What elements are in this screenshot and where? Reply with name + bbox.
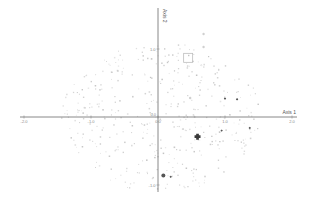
data-point [92, 107, 93, 108]
data-point [118, 65, 119, 66]
data-point [185, 119, 186, 120]
data-point [225, 65, 226, 66]
data-point [82, 112, 84, 114]
data-point [251, 112, 252, 113]
data-point [241, 142, 242, 143]
data-point [248, 115, 249, 116]
data-point [120, 175, 121, 176]
data-point [179, 150, 180, 151]
data-point [147, 172, 148, 173]
data-point [95, 74, 96, 75]
data-point [109, 137, 110, 138]
data-point [192, 181, 193, 182]
data-point [178, 68, 179, 69]
data-point [65, 97, 67, 99]
data-point [138, 164, 139, 165]
data-point [142, 52, 143, 53]
data-point [79, 122, 80, 123]
data-point [111, 169, 112, 170]
data-point [225, 156, 227, 158]
data-point [89, 139, 91, 141]
data-point [257, 128, 258, 129]
data-point [63, 105, 65, 107]
data-point [126, 168, 127, 169]
data-point [177, 106, 178, 107]
data-point [201, 65, 202, 66]
data-point [115, 62, 116, 63]
data-point [178, 53, 179, 54]
data-point [188, 76, 189, 77]
x-axis-title: Axis 1 [282, 109, 296, 115]
data-point [79, 94, 80, 95]
data-point [147, 81, 148, 82]
data-point [218, 160, 219, 161]
data-point [191, 147, 192, 148]
data-point [173, 96, 174, 97]
data-point [182, 129, 183, 130]
data-point [251, 116, 252, 117]
data-point [147, 173, 148, 174]
data-point [178, 72, 179, 73]
data-point [99, 89, 101, 91]
highlighted-point [184, 53, 193, 62]
data-point [89, 103, 90, 104]
data-point [73, 92, 74, 93]
data-point [75, 144, 77, 146]
data-point [96, 146, 97, 147]
data-point [132, 96, 134, 98]
data-point [102, 129, 103, 130]
data-point [77, 110, 78, 111]
data-point [215, 73, 216, 74]
data-point [151, 143, 153, 145]
data-point [102, 71, 104, 73]
data-point [115, 102, 116, 103]
data-point [169, 154, 170, 155]
data-point [167, 92, 168, 93]
data-point [64, 113, 65, 114]
data-point [186, 130, 187, 131]
highlighted-point [195, 134, 201, 140]
data-point [238, 124, 239, 125]
data-point [84, 76, 85, 77]
data-point [173, 80, 174, 81]
data-point [78, 152, 79, 153]
data-point [76, 115, 77, 116]
data-point [244, 151, 245, 152]
data-point [166, 104, 167, 105]
data-point [82, 137, 83, 138]
data-point [76, 147, 77, 148]
data-point [146, 159, 148, 161]
data-point [194, 139, 195, 140]
data-point [92, 141, 93, 142]
data-point [238, 91, 239, 92]
data-point [165, 56, 166, 57]
data-point [149, 108, 151, 110]
data-point [99, 165, 101, 167]
data-point [167, 184, 168, 185]
data-point [198, 86, 199, 87]
data-point [111, 109, 112, 110]
data-point [147, 133, 148, 134]
data-point [188, 55, 189, 56]
data-point [168, 162, 169, 163]
data-point [95, 167, 96, 168]
data-point [173, 126, 175, 128]
data-point [142, 138, 143, 139]
data-point [245, 139, 246, 140]
axes [20, 8, 297, 192]
data-point [219, 148, 220, 149]
data-point [208, 56, 209, 57]
data-point [118, 59, 119, 60]
data-point [209, 126, 210, 127]
data-point [102, 101, 103, 102]
data-point [143, 132, 144, 133]
data-point [101, 89, 102, 90]
data-point [243, 153, 245, 155]
data-point [189, 66, 190, 67]
data-point [111, 72, 112, 73]
data-point [115, 118, 116, 119]
data-point [153, 136, 154, 137]
data-point [110, 180, 111, 181]
data-point [95, 88, 96, 89]
data-point [177, 163, 178, 164]
